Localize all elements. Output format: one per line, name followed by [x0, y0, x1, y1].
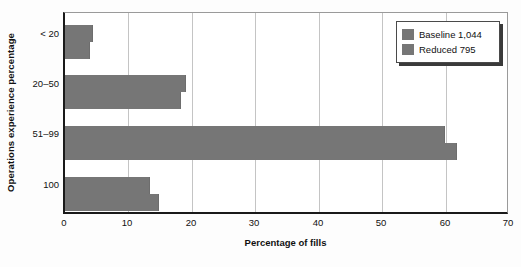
y-axis-title-text: Operations experience percentage: [5, 33, 16, 192]
bar-20-50-reduced: [65, 92, 181, 109]
x-axis-title: Percentage of fills: [63, 237, 508, 248]
bar-chart-figure: Operations experience percentage < 20 20…: [0, 0, 521, 267]
x-axis-tick-labels: 0 10 20 30 40 50 60 70: [63, 215, 508, 231]
bar-100-baseline: [65, 177, 150, 194]
x-tick-label-70: 70: [503, 217, 514, 228]
chart-legend: Baseline 1,044 Reduced 795: [396, 21, 500, 63]
y-tick-label-51-99: 51–99: [20, 128, 59, 139]
bar-100-reduced: [65, 194, 159, 211]
x-tick-label-60: 60: [440, 217, 451, 228]
y-tick-label-20-50: 20–50: [20, 78, 59, 89]
x-tick-label-10: 10: [122, 217, 133, 228]
x-tick-label-30: 30: [249, 217, 260, 228]
y-axis-tick-labels: < 20 20–50 51–99 100: [20, 12, 59, 214]
bar-lt20-reduced: [65, 42, 90, 59]
x-tick-label-50: 50: [376, 217, 387, 228]
y-axis-title: Operations experience percentage: [0, 0, 20, 225]
bar-51-99-baseline: [65, 126, 445, 143]
x-tick-label-0: 0: [61, 217, 66, 228]
legend-item-baseline: Baseline 1,044: [402, 27, 493, 42]
legend-item-reduced: Reduced 795: [402, 42, 493, 57]
bar-20-50-baseline: [65, 75, 186, 92]
legend-label-reduced: Reduced 795: [419, 44, 476, 55]
y-tick-label-lt20: < 20: [20, 28, 59, 39]
bar-51-99-reduced: [65, 143, 457, 160]
bar-lt20-baseline: [65, 25, 93, 42]
y-tick-label-100: 100: [20, 179, 59, 190]
legend-swatch-reduced: [402, 44, 414, 55]
legend-swatch-baseline: [402, 29, 414, 40]
legend-label-baseline: Baseline 1,044: [419, 29, 482, 40]
x-tick-label-20: 20: [186, 217, 197, 228]
x-tick-label-40: 40: [313, 217, 324, 228]
